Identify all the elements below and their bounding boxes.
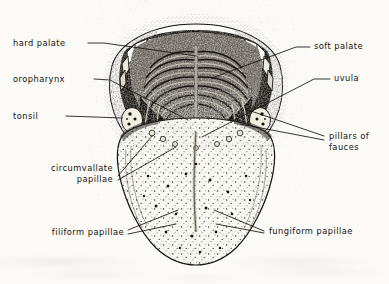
- label-fungiform-papillae: fungiform papillae: [269, 226, 353, 237]
- label-tonsil: tonsil: [13, 111, 38, 122]
- label-pillars-of-fauces-line2: fauces: [329, 142, 359, 153]
- tongue: [110, 112, 286, 272]
- figure-page: hard palate oropharynx tonsil circumvall…: [0, 0, 389, 284]
- label-filiform-papillae: filiform papillae: [0, 227, 124, 238]
- label-soft-palate: soft palate: [314, 41, 363, 52]
- label-pillars-of-fauces-line1: pillars of: [329, 131, 369, 142]
- label-hard-palate: hard palate: [13, 38, 66, 49]
- label-uvula: uvula: [334, 73, 359, 84]
- label-circumvallate-papillae-line1: circumvallate: [0, 163, 113, 174]
- label-circumvallate-papillae-line2: papillae: [0, 174, 113, 185]
- label-oropharynx: oropharynx: [13, 74, 65, 85]
